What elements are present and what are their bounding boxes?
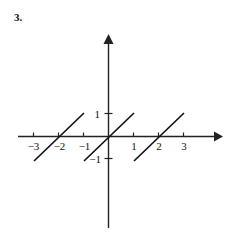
x-tick-label-pos3: 3 xyxy=(181,140,187,152)
figure-container: 3. −3 −2 −1 1 2 3 1 −1 xyxy=(0,0,233,237)
y-tick-label-neg1: −1 xyxy=(89,153,101,165)
x-tick-label-neg2: −2 xyxy=(54,140,66,152)
y-axis-arrow-icon xyxy=(104,34,114,44)
y-tick-label-pos1: 1 xyxy=(95,108,101,120)
x-tick-label-neg3: −3 xyxy=(28,140,40,152)
x-axis-arrow-icon xyxy=(214,132,223,142)
graph-plot: −3 −2 −1 1 2 3 1 −1 xyxy=(0,0,233,237)
x-tick-label-neg1: −1 xyxy=(79,140,91,152)
x-tick-label-pos1: 1 xyxy=(131,140,137,152)
x-tick-label-pos2: 2 xyxy=(156,140,162,152)
